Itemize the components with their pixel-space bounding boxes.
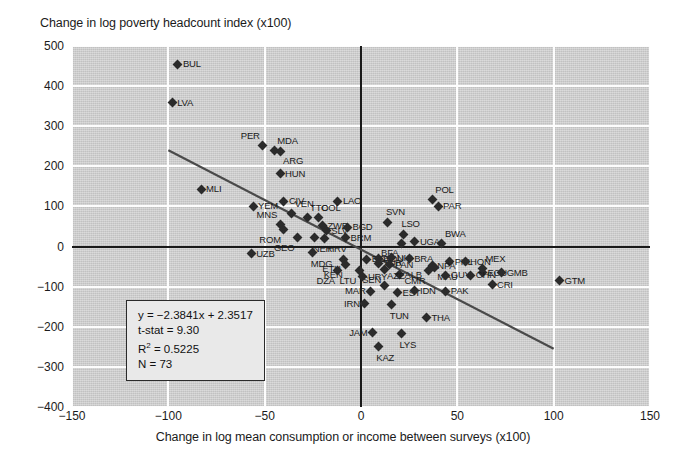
y-tick-label: −300	[37, 360, 64, 374]
x-tick-label: 100	[544, 409, 564, 423]
point-label: LYS	[399, 340, 416, 350]
y-tick-label: −400	[37, 400, 64, 414]
regression-r2: R2 = 0.5225	[138, 338, 253, 357]
y-tick-label: 400	[44, 79, 64, 93]
point-label: BGD	[353, 222, 373, 232]
regression-tstat: t-stat = 9.30	[138, 323, 253, 338]
x-tick-label: −100	[155, 409, 182, 423]
point-label: IRN	[344, 299, 360, 309]
point-label: BWA	[445, 229, 466, 239]
point-label: MNS	[257, 210, 278, 220]
y-axis-title: Change in log poverty headcount index (x…	[40, 16, 291, 30]
point-label: SVN	[386, 207, 405, 217]
y-tick-label: 100	[44, 199, 64, 213]
point-label: ALB	[405, 270, 422, 280]
point-label: PAR	[443, 201, 461, 211]
point-label: CHN	[476, 270, 496, 280]
point-label: GEO	[274, 243, 295, 253]
point-label: ARG	[283, 156, 303, 166]
point-label: JAM	[349, 328, 367, 338]
point-label: HRV	[327, 244, 346, 254]
point-label: LTU	[339, 276, 356, 286]
y-tick-label: 0	[57, 240, 64, 254]
x-tick-label: 50	[451, 409, 464, 423]
point-label: POL	[435, 185, 453, 195]
point-label: BRM	[351, 233, 372, 243]
regression-stats-box: y = −2.3841x + 2.3517 t-stat = 9.30 R2 =…	[126, 300, 265, 381]
point-label: BUL	[183, 59, 201, 69]
point-label: MAR	[345, 286, 366, 296]
point-label: LSO	[401, 219, 419, 229]
point-label: KAZ	[376, 353, 394, 363]
x-tick-label: 150	[640, 409, 660, 423]
point-label: TUN	[390, 311, 409, 321]
y-tick-label: 200	[44, 159, 64, 173]
point-label: UZB	[256, 249, 274, 259]
point-label: COL	[322, 203, 341, 213]
y-tick-label: −100	[37, 280, 64, 294]
point-label: CRI	[497, 280, 513, 290]
y-tick-label: 300	[44, 119, 64, 133]
point-label: PAN	[395, 260, 413, 270]
y-tick-label: −200	[37, 320, 64, 334]
point-label: GTM	[564, 276, 585, 286]
x-tick-label: −50	[254, 409, 274, 423]
point-label: LVA	[177, 98, 193, 108]
point-label: MLI	[206, 184, 221, 194]
x-tick-label: 0	[358, 409, 365, 423]
point-label: MEX	[485, 254, 505, 264]
x-axis-title: Change in log mean consumption or income…	[0, 430, 686, 444]
r2-value: = 0.5225	[151, 343, 199, 355]
point-label: LAO	[343, 196, 361, 206]
y-tick-label: 500	[44, 39, 64, 53]
point-label: MDA	[277, 136, 298, 146]
chart-container: Change in log poverty headcount index (x…	[0, 0, 686, 460]
regression-n: N = 73	[138, 357, 253, 372]
point-label: PER	[241, 131, 260, 141]
point-label: PAK	[451, 286, 469, 296]
point-label: THA	[432, 313, 450, 323]
point-label: HUN	[285, 169, 305, 179]
regression-equation: y = −2.3841x + 2.3517	[138, 308, 253, 323]
point-label: IDN	[420, 286, 436, 296]
point-label: GMB	[507, 268, 528, 278]
point-label: DZA	[316, 276, 334, 286]
point-label: AZE	[387, 271, 405, 281]
